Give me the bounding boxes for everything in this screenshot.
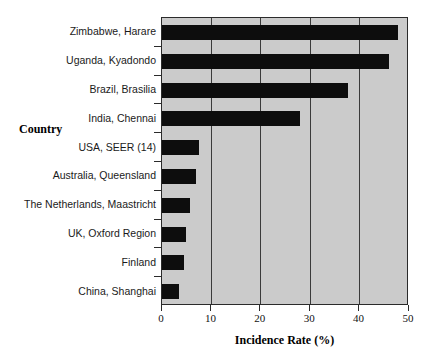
y-axis-title: Country <box>19 122 62 137</box>
y-axis-tick <box>154 103 161 104</box>
category-label: USA, SEER (14) <box>6 141 156 153</box>
y-axis-tick <box>154 75 161 76</box>
category-label: Australia, Queensland <box>6 169 156 181</box>
x-axis-title: Incidence Rate (%) <box>161 333 408 348</box>
x-axis-tick <box>358 305 359 311</box>
y-axis-tick <box>154 161 161 162</box>
category-label: The Netherlands, Maastricht <box>6 198 156 210</box>
category-label: UK, Oxford Region <box>6 227 156 239</box>
x-axis-tick-label: 50 <box>388 312 428 324</box>
x-axis-tick-label: 40 <box>339 312 379 324</box>
x-axis-tick <box>309 305 310 311</box>
x-axis-tick <box>408 305 409 311</box>
bar <box>162 25 398 40</box>
category-label: Uganda, Kyadondo <box>6 54 156 66</box>
y-axis-tick <box>154 219 161 220</box>
x-axis-tick-label: 0 <box>141 312 181 324</box>
y-axis-tick <box>154 247 161 248</box>
category-label: China, Shanghai <box>6 285 156 297</box>
x-axis-tick-label: 30 <box>289 312 329 324</box>
category-axis-labels: Zimbabwe, HarareUganda, KyadondoBrazil, … <box>4 17 156 305</box>
bar <box>162 169 196 184</box>
bar <box>162 255 184 270</box>
plot-area <box>161 17 408 305</box>
category-label: Brazil, Brasilia <box>6 83 156 95</box>
x-axis-tick <box>161 305 162 311</box>
bar <box>162 83 348 98</box>
y-axis-tick <box>154 46 161 47</box>
bar-chart-figure: Zimbabwe, HarareUganda, KyadondoBrazil, … <box>0 0 438 362</box>
x-axis-tick <box>259 305 260 311</box>
y-axis-tick <box>154 132 161 133</box>
bar <box>162 111 300 126</box>
category-label: Finland <box>6 256 156 268</box>
x-axis-tick-label: 20 <box>240 312 280 324</box>
x-axis-tick <box>210 305 211 311</box>
bar <box>162 54 389 69</box>
bar <box>162 227 186 242</box>
bar <box>162 284 179 299</box>
bar <box>162 198 190 213</box>
bar <box>162 140 199 155</box>
y-axis-tick <box>154 276 161 277</box>
x-axis-tick-label: 10 <box>190 312 230 324</box>
y-axis-tick <box>154 190 161 191</box>
category-label: Zimbabwe, Harare <box>6 25 156 37</box>
